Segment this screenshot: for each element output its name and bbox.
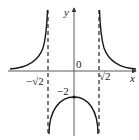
- origin-label: 0: [76, 58, 82, 70]
- curve-left-branch: [10, 10, 48, 69]
- vertex-label: −2: [57, 85, 69, 97]
- function-graph: y x 0 −√2 √2 −2: [0, 0, 139, 140]
- y-axis-label: y: [63, 6, 69, 18]
- x-axis-label: x: [129, 72, 135, 84]
- vertex-point: [72, 95, 75, 98]
- curve-right-branch: [100, 10, 137, 69]
- curve-middle-branch: [49, 97, 98, 134]
- neg-sqrt2-label: −√2: [26, 75, 44, 87]
- sqrt2-label: √2: [99, 70, 111, 82]
